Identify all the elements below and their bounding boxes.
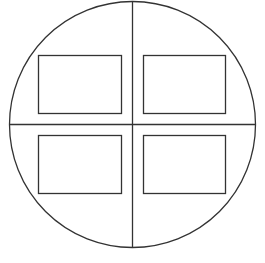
top-right-box xyxy=(144,56,226,114)
bottom-left-box xyxy=(39,136,122,194)
quadrant-circle-diagram xyxy=(0,0,265,263)
bottom-right-box xyxy=(144,136,226,194)
top-left-box xyxy=(39,56,122,114)
